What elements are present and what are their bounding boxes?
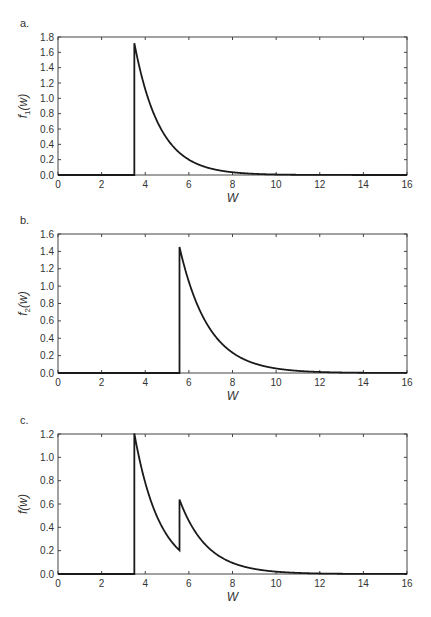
y-tick-label: 0.2 <box>40 350 54 361</box>
x-tick-label: 12 <box>314 578 326 589</box>
y-tick-label: 1.6 <box>40 47 54 58</box>
y-tick-label: 0.0 <box>40 368 54 379</box>
x-tick-label: 10 <box>271 377 283 388</box>
y-tick-label: 1.4 <box>40 246 54 257</box>
y-tick-label: 0.4 <box>40 522 54 533</box>
x-tick-label: 8 <box>230 179 236 190</box>
x-axis-label: W <box>227 191 240 205</box>
chart-panel-a: a.02468101214160.00.20.40.60.81.01.21.41… <box>16 17 413 205</box>
x-tick-label: 8 <box>230 377 236 388</box>
y-tick-label: 0.8 <box>40 298 54 309</box>
y-tick-label: 0.2 <box>40 154 54 165</box>
y-tick-label: 0.8 <box>40 475 54 486</box>
x-tick-label: 2 <box>99 578 105 589</box>
y-axis-label: f1(w) <box>16 94 32 118</box>
x-tick-label: 10 <box>271 578 283 589</box>
y-tick-label: 1.8 <box>40 32 54 43</box>
y-axis-label: f2(w) <box>16 291 32 315</box>
plot-frame <box>58 434 407 574</box>
y-tick-label: 1.0 <box>40 93 54 104</box>
density-curve <box>58 434 407 574</box>
y-tick-label: 0.8 <box>40 108 54 119</box>
y-tick-label: 1.0 <box>40 452 54 463</box>
x-tick-label: 14 <box>358 179 370 190</box>
x-tick-label: 4 <box>142 377 148 388</box>
density-curve <box>58 247 407 373</box>
y-tick-label: 0.6 <box>40 124 54 135</box>
x-tick-label: 14 <box>358 377 370 388</box>
y-axis-label: f(w) <box>16 494 30 514</box>
x-tick-label: 12 <box>314 377 326 388</box>
x-tick-label: 10 <box>271 179 283 190</box>
x-tick-label: 16 <box>401 179 413 190</box>
y-tick-label: 1.0 <box>40 281 54 292</box>
x-tick-label: 8 <box>230 578 236 589</box>
x-tick-label: 0 <box>55 578 61 589</box>
x-tick-label: 12 <box>314 179 326 190</box>
y-tick-label: 0.0 <box>40 170 54 181</box>
x-tick-label: 4 <box>142 578 148 589</box>
x-tick-label: 14 <box>358 578 370 589</box>
x-tick-label: 4 <box>142 179 148 190</box>
x-axis-label: W <box>227 590 240 604</box>
x-tick-label: 2 <box>99 179 105 190</box>
y-tick-label: 1.2 <box>40 429 54 440</box>
x-tick-label: 16 <box>401 377 413 388</box>
y-tick-label: 1.6 <box>40 229 54 240</box>
x-axis-label: W <box>227 389 240 403</box>
figure-canvas: a.02468101214160.00.20.40.60.81.01.21.41… <box>0 0 431 617</box>
panel-label: a. <box>20 17 29 29</box>
panel-label: b. <box>20 214 29 226</box>
plot-frame <box>58 37 407 175</box>
density-curve <box>58 43 407 175</box>
x-tick-label: 6 <box>186 578 192 589</box>
chart-panel-c: c.02468101214160.00.20.40.60.81.01.2Wf(w… <box>16 414 413 604</box>
y-tick-label: 0.4 <box>40 333 54 344</box>
x-tick-label: 6 <box>186 179 192 190</box>
y-tick-label: 0.6 <box>40 315 54 326</box>
x-tick-label: 0 <box>55 179 61 190</box>
x-tick-label: 0 <box>55 377 61 388</box>
y-tick-label: 1.4 <box>40 62 54 73</box>
x-tick-label: 6 <box>186 377 192 388</box>
chart-panel-b: b.02468101214160.00.20.40.60.81.01.21.41… <box>16 214 413 403</box>
panel-label: c. <box>20 414 29 426</box>
y-tick-label: 0.2 <box>40 545 54 556</box>
x-tick-label: 16 <box>401 578 413 589</box>
x-tick-label: 2 <box>99 377 105 388</box>
y-tick-label: 0.4 <box>40 139 54 150</box>
y-tick-label: 0.6 <box>40 499 54 510</box>
y-tick-label: 0.0 <box>40 569 54 580</box>
y-tick-label: 1.2 <box>40 263 54 274</box>
y-tick-label: 1.2 <box>40 78 54 89</box>
